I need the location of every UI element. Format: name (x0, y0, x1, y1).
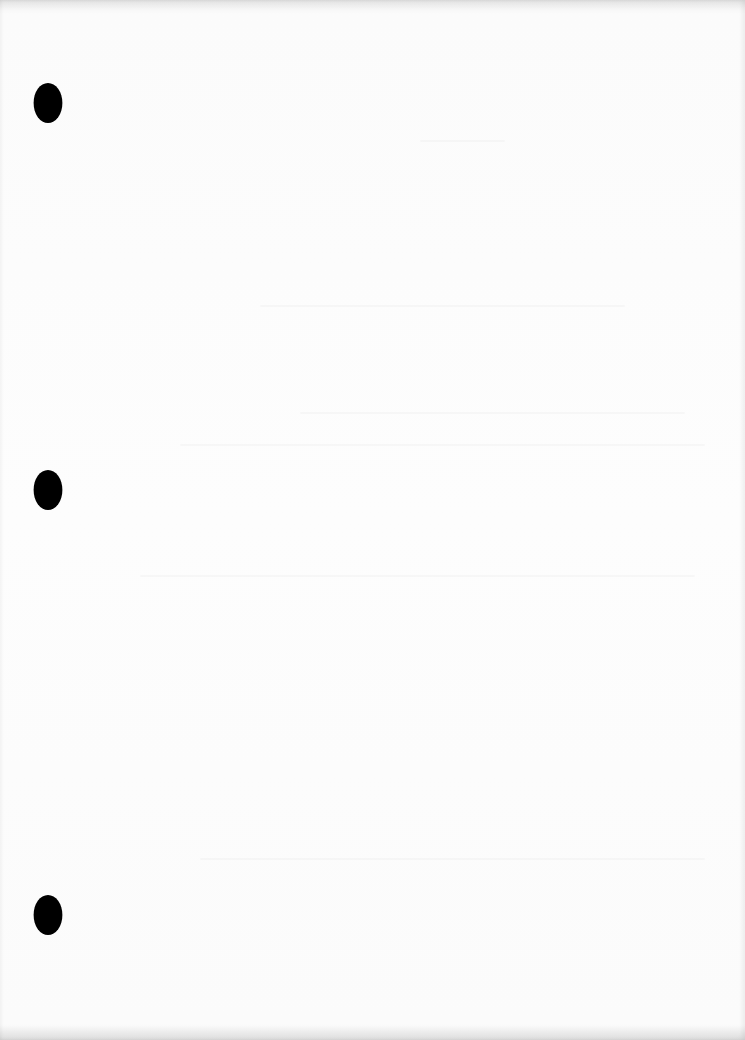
punch-hole-middle (34, 470, 63, 510)
page-bottom-edge-shadow (0, 1026, 745, 1040)
bleed-through-mark (260, 305, 625, 307)
bleed-through-mark (420, 140, 505, 142)
bleed-through-mark (140, 575, 695, 577)
punch-hole-top (34, 83, 63, 123)
blank-document-page (0, 0, 745, 1040)
bleed-through-mark (180, 444, 705, 446)
page-top-edge-shadow (0, 0, 745, 10)
punch-hole-bottom (34, 895, 63, 935)
bleed-through-mark (200, 858, 705, 860)
bleed-through-mark (300, 412, 685, 414)
